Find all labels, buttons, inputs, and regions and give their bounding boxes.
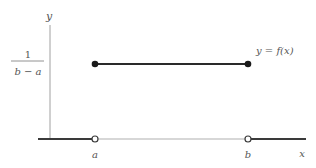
open-point-b — [245, 136, 251, 142]
y-tick-denominator: b − a — [14, 66, 41, 77]
x-axis-label: x — [299, 148, 305, 159]
closed-point-a — [92, 61, 99, 68]
closed-point-b — [245, 61, 252, 68]
x-tick-b: b — [245, 149, 251, 160]
y-tick-numerator: 1 — [25, 49, 31, 60]
uniform-pdf-diagram: y 1 b − a y = f(x) a b x — [0, 0, 316, 168]
y-axis-label: y — [45, 10, 53, 23]
x-tick-a: a — [92, 149, 98, 160]
open-point-a — [92, 136, 98, 142]
curve-label: y = f(x) — [255, 45, 294, 56]
